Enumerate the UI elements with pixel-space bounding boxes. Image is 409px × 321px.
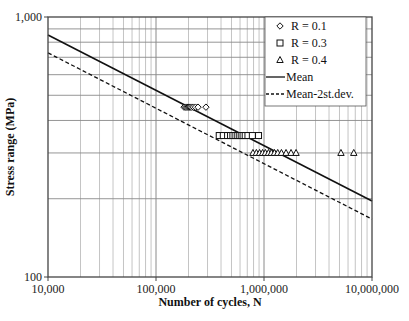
- x-tick-label: 100,000: [137, 282, 176, 296]
- x-tick-label: 10,000,000: [345, 282, 399, 296]
- data-point-triangle: [293, 149, 299, 155]
- legend-label: R = 0.1: [291, 19, 327, 33]
- data-point-triangle: [338, 149, 344, 155]
- legend-label: R = 0.4: [291, 53, 327, 67]
- data-point-square: [249, 133, 255, 139]
- legend-label: Mean: [286, 70, 313, 84]
- data-point-triangle: [351, 149, 357, 155]
- x-axis-label: Number of cycles, N: [158, 295, 261, 309]
- y-tick-label: 100: [24, 270, 42, 284]
- legend-marker-square: [277, 40, 283, 46]
- legend-label: Mean-2st.dev.: [286, 87, 354, 101]
- data-point-square: [256, 133, 262, 139]
- sn-curve-chart: 10,000100,0001,000,00010,000,0001001,000…: [0, 0, 409, 321]
- legend-label: R = 0.3: [291, 36, 327, 50]
- y-tick-label: 1,000: [15, 10, 42, 24]
- x-tick-label: 1,000,000: [240, 282, 288, 296]
- legend: R = 0.1R = 0.3R = 0.4MeanMean-2st.dev.: [265, 17, 366, 106]
- data-point-diamond: [203, 104, 209, 110]
- y-axis-label: Stress range (MPa): [3, 98, 17, 196]
- x-tick-label: 10,000: [32, 282, 65, 296]
